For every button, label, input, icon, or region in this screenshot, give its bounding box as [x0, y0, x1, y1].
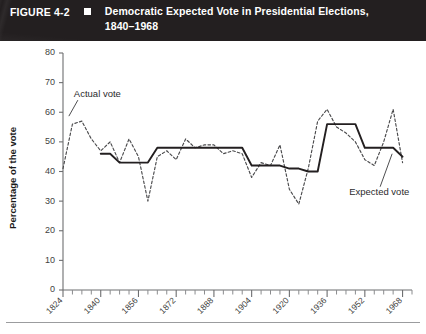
x-axis-tick-label: 1824: [44, 295, 65, 316]
footer-divider: [6, 322, 420, 323]
annotation-leader-line: [380, 154, 392, 187]
y-axis-tick-label: 20: [45, 225, 55, 235]
y-axis-ticks: 01020304050607080: [45, 47, 63, 294]
figure-number: FIGURE 4-2: [10, 4, 70, 19]
figure-title-line1: Democratic Expected Vote in Presidential…: [105, 5, 369, 17]
x-axis-tick-label: 1888: [195, 295, 216, 316]
annotation-leader-line: [69, 100, 78, 116]
line-chart: Percentage of the vote 01020304050607080…: [0, 41, 426, 316]
figure-header-row: FIGURE 4-2 Democratic Expected Vote in P…: [10, 4, 418, 33]
x-axis-tick-label: 1968: [384, 295, 405, 316]
y-axis-tick-label: 0: [50, 284, 55, 294]
x-axis-tick-label: 1952: [346, 295, 367, 316]
y-axis-tick-label: 30: [45, 196, 55, 206]
series-expected-vote: [101, 124, 403, 171]
figure-header-bar: FIGURE 4-2 Democratic Expected Vote in P…: [0, 0, 426, 41]
annotation-expected-vote: Expected vote: [349, 154, 409, 197]
y-axis-tick-label: 40: [45, 166, 55, 176]
x-axis-tick-label: 1856: [119, 295, 140, 316]
y-axis-title: Percentage of the vote: [7, 127, 18, 229]
x-axis-tick-label: 1936: [308, 295, 329, 316]
x-axis-tick-label: 1904: [233, 295, 254, 316]
x-axis-minor-ticks: [72, 290, 412, 295]
y-axis-tick-label: 70: [45, 77, 55, 87]
y-axis-tick-label: 50: [45, 136, 55, 146]
x-axis-tick-label: 1920: [270, 295, 291, 316]
filled-square-icon: [84, 8, 91, 15]
chart-area: Percentage of the vote 01020304050607080…: [0, 41, 426, 316]
annotation-label-expected-vote: Expected vote: [349, 186, 409, 197]
annotation-label-actual-vote: Actual vote: [74, 88, 121, 99]
figure-title: Democratic Expected Vote in Presidential…: [105, 4, 369, 33]
x-axis-tick-label: 1872: [157, 295, 178, 316]
y-axis-tick-label: 60: [45, 107, 55, 117]
x-axis-labels: 1824184018561872188819041920193619521968: [44, 295, 404, 316]
annotation-actual-vote: Actual vote: [69, 88, 121, 116]
x-axis-tick-label: 1840: [82, 295, 103, 316]
figure-title-line2: 1840–1968: [105, 20, 158, 32]
y-axis-tick-label: 80: [45, 47, 55, 57]
y-axis-tick-label: 10: [45, 255, 55, 265]
